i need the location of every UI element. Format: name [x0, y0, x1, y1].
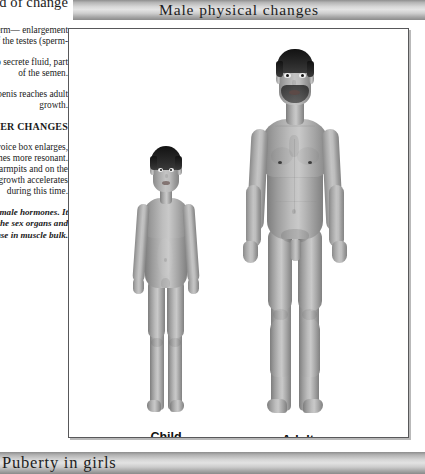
adult-mouth — [289, 90, 300, 95]
adult-genitals — [290, 239, 301, 261]
top-banner-title: Male physical changes — [73, 0, 405, 20]
text-column-paragraph: Growth occurs so that the penis reaches … — [0, 89, 68, 111]
child-left-pupil — [160, 169, 162, 171]
child-right-hand — [188, 278, 199, 294]
adult-right-knee — [302, 309, 317, 320]
text-column-paragraph: Increased production of sperm— enlargeme… — [0, 25, 68, 47]
adult-right-eyebrow — [298, 70, 307, 72]
child-label: Child — [126, 430, 206, 438]
adult-left-foot — [267, 399, 287, 413]
text-column-note: Testosterone is one of the male hormones… — [0, 207, 68, 241]
text-column-heading: period of change — [0, 0, 68, 11]
adult-left-hand — [243, 241, 258, 263]
child-hair-side-right — [175, 156, 182, 170]
text-column-subheading: OTHER CHANGES — [0, 121, 68, 133]
child-nose — [165, 174, 168, 178]
adult-right-pupil — [301, 74, 304, 77]
adult-right-calf — [299, 319, 320, 377]
child-hair-side-left — [150, 156, 157, 170]
child-right-knee — [169, 338, 181, 347]
adult-right-foot — [303, 399, 323, 413]
adult-label: Adult — [258, 433, 338, 438]
child-left-foot — [147, 400, 161, 412]
text-column-paragraph: Around the age when the voice box enlarg… — [0, 142, 68, 197]
child-abdomen-highlight — [157, 238, 173, 276]
adult-waist-line — [275, 201, 317, 202]
adult-hair-side-left — [276, 61, 283, 77]
child-groin — [161, 278, 170, 288]
adult-left-nipple — [278, 161, 282, 164]
bottom-banner-title: Puberty in girls — [2, 452, 117, 474]
child-figure: Child — [131, 142, 201, 417]
adult-left-eyebrow — [283, 70, 292, 72]
left-text-column: period of change Increased production of… — [0, 0, 68, 445]
child-right-pupil — [170, 169, 172, 171]
adult-left-calf — [270, 319, 291, 377]
child-right-foot — [170, 400, 184, 412]
adult-left-knee — [273, 309, 288, 320]
adult-collarbone — [275, 125, 315, 127]
figure-panel: Child — [68, 28, 409, 438]
adult-navel — [292, 209, 296, 214]
child-chest — [143, 198, 189, 238]
child-left-knee — [151, 338, 163, 347]
adult-right-forearm — [329, 185, 344, 247]
adult-right-nipple — [308, 161, 312, 164]
top-banner: Male physical changes — [73, 0, 425, 20]
adult-left-forearm — [246, 185, 261, 247]
child-navel — [164, 258, 167, 262]
adult-hair-side-right — [307, 61, 314, 77]
text-column-paragraph: The prostate gland begins to secrete flu… — [0, 57, 68, 79]
adult-rib-line — [274, 177, 318, 178]
child-left-hand — [133, 278, 144, 294]
adult-right-hand — [332, 241, 347, 263]
adult-left-pupil — [286, 74, 289, 77]
bottom-banner: Puberty in girls — [0, 452, 425, 474]
left-text-column-content: period of change Increased production of… — [0, 0, 68, 241]
adult-chest-hair — [289, 135, 299, 157]
child-mouth — [162, 181, 170, 185]
adult-figure: Adult — [237, 37, 357, 417]
